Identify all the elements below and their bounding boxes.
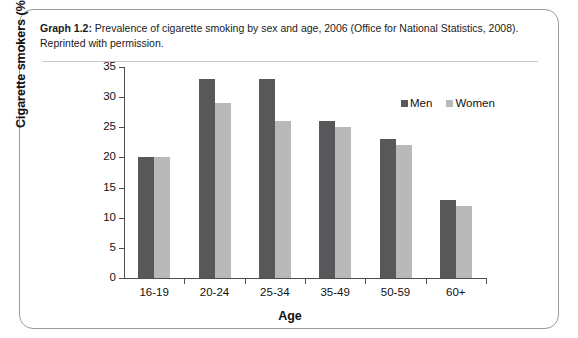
x-tick (365, 279, 366, 284)
legend-label: Women (455, 98, 494, 110)
legend-swatch-icon (446, 100, 453, 107)
x-tick (184, 279, 185, 284)
caption-divider (42, 61, 538, 62)
y-tick-label: 15 (76, 182, 116, 194)
bar-men-50-59 (380, 139, 396, 278)
bar-women-35-49 (335, 127, 351, 278)
legend-item-women: Women (446, 98, 494, 110)
y-tick-label: 25 (76, 121, 116, 133)
bar-men-20-24 (199, 79, 215, 278)
x-category-label: 16-19 (124, 286, 184, 298)
y-tick-label: 10 (76, 212, 116, 224)
x-tick (486, 279, 487, 284)
x-category-label: 35-49 (305, 286, 365, 298)
bar-women-20-24 (215, 103, 231, 278)
x-category-label: 60+ (426, 286, 486, 298)
legend-swatch-icon (401, 100, 408, 107)
bar-women-50-59 (396, 145, 412, 278)
bar-women-16-19 (154, 157, 170, 278)
y-tick-label: 20 (76, 151, 116, 163)
y-tick-label: 30 (76, 91, 116, 103)
bar-men-16-19 (138, 157, 154, 278)
y-tick-label: 5 (76, 242, 116, 254)
y-tick-label: 35 (76, 61, 116, 73)
x-tick (245, 279, 246, 284)
bar-men-60+ (440, 200, 456, 278)
y-axis-title: Cigarette smokers (%) (14, 0, 28, 128)
chart-legend: MenWomen (401, 98, 495, 110)
x-tick (305, 279, 306, 284)
figure-frame: Graph 1.2: Prevalence of cigarette smoki… (19, 9, 559, 329)
bar-women-25-34 (275, 121, 291, 278)
y-axis-tick-labels: 05101520253035 (72, 10, 116, 338)
x-category-label: 20-24 (184, 286, 244, 298)
x-category-label: 25-34 (245, 286, 305, 298)
y-tick-label: 0 (76, 272, 116, 284)
bar-women-60+ (456, 206, 472, 278)
legend-item-men: Men (401, 98, 432, 110)
x-category-label: 50-59 (365, 286, 425, 298)
x-tick (426, 279, 427, 284)
bar-men-25-34 (259, 79, 275, 278)
legend-label: Men (410, 98, 432, 110)
bar-men-35-49 (319, 121, 335, 278)
